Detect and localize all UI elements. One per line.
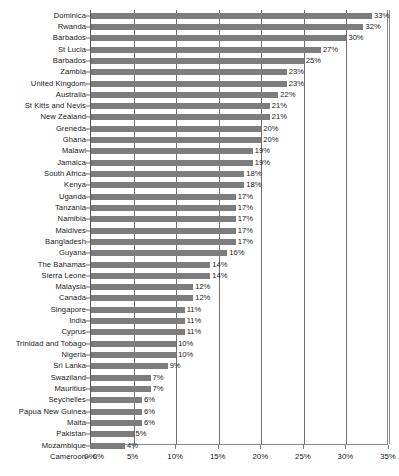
x-tick bbox=[218, 445, 219, 449]
x-tick bbox=[133, 445, 134, 449]
bar-row: United Kingdom23% bbox=[0, 78, 399, 89]
bar-row: Nigeria10% bbox=[0, 349, 399, 360]
bar-row: Dominica33% bbox=[0, 10, 399, 21]
bar-row: Barbados25% bbox=[0, 55, 399, 66]
value-label: 11% bbox=[187, 306, 202, 314]
category-label: Namibia bbox=[58, 215, 86, 223]
bar bbox=[91, 375, 151, 381]
bar bbox=[91, 341, 176, 347]
bar bbox=[91, 92, 278, 98]
bar bbox=[91, 194, 236, 200]
value-label: 22% bbox=[280, 91, 295, 99]
bar bbox=[91, 137, 261, 143]
category-label: Zambia bbox=[60, 68, 86, 76]
y-tick bbox=[86, 332, 90, 333]
bar-row: Pakistan5% bbox=[0, 429, 399, 440]
y-tick bbox=[86, 287, 90, 288]
category-label: Mauritius bbox=[54, 385, 86, 393]
category-label: Pakistan bbox=[56, 430, 86, 438]
bar bbox=[91, 126, 261, 132]
y-tick bbox=[86, 275, 90, 276]
value-label: 21% bbox=[272, 113, 287, 121]
category-label: Mozambique bbox=[42, 442, 86, 450]
y-tick bbox=[86, 230, 90, 231]
value-label: 9% bbox=[170, 362, 181, 370]
y-tick bbox=[86, 60, 90, 61]
x-tick bbox=[345, 445, 346, 449]
category-label: Guyana bbox=[59, 249, 86, 257]
y-tick bbox=[86, 422, 90, 423]
value-label: 10% bbox=[178, 340, 193, 348]
y-tick bbox=[86, 26, 90, 27]
bar bbox=[91, 363, 168, 369]
bar bbox=[91, 284, 193, 290]
x-tick-label: 25% bbox=[295, 452, 311, 461]
bar-row: Malta6% bbox=[0, 417, 399, 428]
bar bbox=[91, 397, 142, 403]
value-label: 6% bbox=[144, 408, 155, 416]
bar bbox=[91, 103, 270, 109]
value-label: 27% bbox=[323, 46, 338, 54]
y-tick bbox=[86, 106, 90, 107]
x-tick-label: 30% bbox=[338, 452, 354, 461]
bar bbox=[91, 13, 372, 19]
bar-row: The Bahamas14% bbox=[0, 259, 399, 270]
category-label: Sierra Leone bbox=[42, 272, 86, 280]
category-label: Swaziland bbox=[51, 374, 86, 382]
category-label: South Africa bbox=[44, 170, 86, 178]
bar-row: Mauritius7% bbox=[0, 383, 399, 394]
bar bbox=[91, 205, 236, 211]
bar bbox=[91, 318, 185, 324]
bar bbox=[91, 160, 253, 166]
x-tick-label: 35% bbox=[380, 452, 396, 461]
bar-row: Kenya18% bbox=[0, 180, 399, 191]
bar-row: Malaysia12% bbox=[0, 282, 399, 293]
y-tick bbox=[86, 162, 90, 163]
bar bbox=[91, 58, 304, 64]
x-tick-label: 0% bbox=[84, 452, 95, 461]
category-label: Canada bbox=[59, 294, 86, 302]
bar-row: Sierra Leone14% bbox=[0, 270, 399, 281]
bar-row: Cyprus11% bbox=[0, 327, 399, 338]
bar bbox=[91, 182, 244, 188]
value-label: 17% bbox=[238, 227, 253, 235]
category-label: United Kingdom bbox=[31, 80, 86, 88]
value-label: 7% bbox=[153, 385, 164, 393]
y-tick bbox=[86, 83, 90, 84]
value-label: 20% bbox=[263, 136, 278, 144]
category-label: Nigeria bbox=[61, 351, 86, 359]
bar-row: New Zealand21% bbox=[0, 112, 399, 123]
category-label: Dominica bbox=[54, 12, 86, 20]
bar-chart: Dominica33%Rwanda32%Barbados30%St Lucia2… bbox=[0, 0, 399, 476]
x-tick bbox=[175, 445, 176, 449]
bar bbox=[91, 329, 185, 335]
bar bbox=[91, 171, 244, 177]
value-label: 12% bbox=[195, 283, 210, 291]
category-label: St Lucia bbox=[58, 46, 86, 54]
category-label: Barbados bbox=[53, 34, 86, 42]
y-tick bbox=[86, 207, 90, 208]
bar-row: Uganda17% bbox=[0, 191, 399, 202]
category-label: Singapore bbox=[51, 306, 86, 314]
category-label: Australia bbox=[56, 91, 86, 99]
category-label: Cyprus bbox=[61, 328, 86, 336]
bar-row: Barbados30% bbox=[0, 33, 399, 44]
category-label: Ghana bbox=[63, 136, 86, 144]
bar-row: Bangladesh17% bbox=[0, 236, 399, 247]
y-tick bbox=[86, 366, 90, 367]
value-label: 17% bbox=[238, 238, 253, 246]
value-label: 25% bbox=[306, 57, 321, 65]
value-label: 14% bbox=[212, 261, 227, 269]
bar-row: Trinidad and Tobago10% bbox=[0, 338, 399, 349]
x-tick-label: 10% bbox=[167, 452, 183, 461]
category-label: St Kitts and Nevis bbox=[25, 102, 86, 110]
category-label: Malaysia bbox=[55, 283, 86, 291]
y-tick bbox=[86, 196, 90, 197]
y-tick bbox=[86, 185, 90, 186]
y-tick bbox=[86, 298, 90, 299]
category-label: Uganda bbox=[59, 193, 86, 201]
bar-row: Papua New Guinea6% bbox=[0, 406, 399, 417]
x-axis: 0%5%10%15%20%25%30%35% bbox=[90, 445, 388, 471]
bar bbox=[91, 35, 346, 41]
bar-row: Canada12% bbox=[0, 293, 399, 304]
